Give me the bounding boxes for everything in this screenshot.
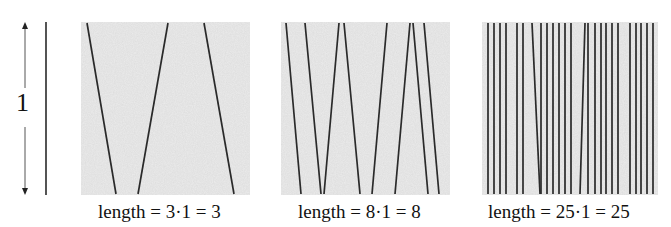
panel-3-segments bbox=[81, 22, 250, 195]
panel-8-segments bbox=[281, 22, 450, 195]
panel-25-segments bbox=[482, 22, 658, 195]
figure-canvas bbox=[0, 0, 671, 227]
caption-3: length = 3·1 = 3 bbox=[98, 201, 221, 223]
panel-texture bbox=[81, 22, 250, 195]
panel-texture bbox=[281, 22, 450, 195]
panel-texture bbox=[482, 22, 658, 195]
arrow-down-icon bbox=[22, 188, 28, 195]
unit-height-label: 1 bbox=[16, 88, 29, 118]
caption-8: length = 8·1 = 8 bbox=[298, 201, 421, 223]
panels bbox=[81, 22, 658, 195]
caption-25: length = 25·1 = 25 bbox=[488, 201, 630, 223]
arrow-up-icon bbox=[22, 22, 28, 29]
